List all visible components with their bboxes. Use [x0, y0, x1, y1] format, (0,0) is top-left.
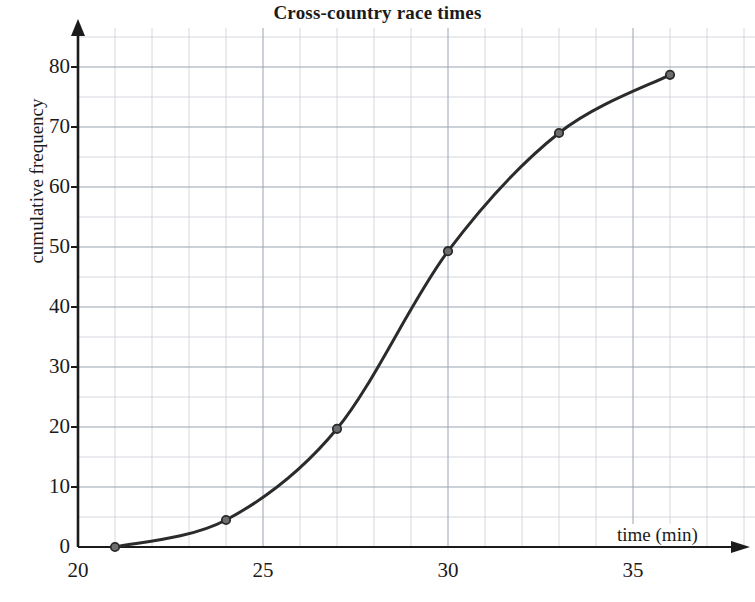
data-point-marker — [555, 129, 563, 137]
x-axis-label: time (min) — [614, 524, 701, 546]
y-axis-tick-label: 20 — [26, 416, 70, 437]
data-point-markers — [111, 71, 674, 552]
y-axis-tick-labels: 01020304050607080 — [0, 0, 70, 602]
cumulative-frequency-chart: Cross-country race times cumulative freq… — [0, 0, 755, 602]
axis-lines — [71, 19, 750, 553]
x-axis-tick-label: 30 — [418, 560, 478, 581]
y-axis-tick-label: 50 — [26, 236, 70, 257]
grid-major-lines — [78, 28, 755, 547]
x-axis-tick-label: 25 — [233, 560, 293, 581]
y-axis-tick-label: 10 — [26, 476, 70, 497]
y-axis-tick-label: 60 — [26, 176, 70, 197]
data-point-marker — [444, 247, 452, 255]
x-axis-tick-label: 20 — [48, 560, 108, 581]
y-axis-tick-label: 80 — [26, 56, 70, 77]
y-axis-tick-label: 30 — [26, 356, 70, 377]
y-axis-tick-label: 0 — [26, 536, 70, 557]
curve-path — [115, 75, 670, 547]
data-point-marker — [111, 543, 119, 551]
plot-area — [0, 0, 755, 602]
x-axis-tick-label: 35 — [603, 560, 663, 581]
data-point-marker — [666, 71, 674, 79]
y-axis-tick-label: 70 — [26, 116, 70, 137]
data-series-line — [115, 75, 670, 547]
data-point-marker — [333, 425, 341, 433]
y-axis-tick-label: 40 — [26, 296, 70, 317]
data-point-marker — [222, 516, 230, 524]
grid-minor-lines — [78, 28, 755, 547]
